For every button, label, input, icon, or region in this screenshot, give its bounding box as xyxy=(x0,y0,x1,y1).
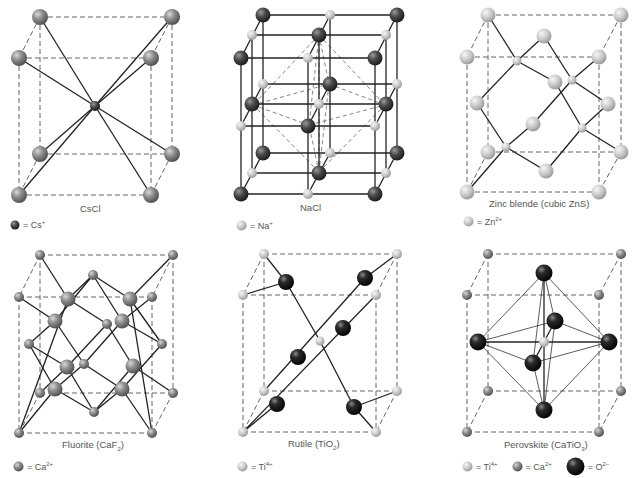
atoms xyxy=(462,249,626,437)
zn-atom-icon xyxy=(463,216,474,227)
fluorite-panel: Fluorite (CaF2) = Ca2+ xyxy=(0,239,213,478)
nacl-caption: NaCl xyxy=(300,202,321,213)
cscl-panel: CsCl = Cs+ xyxy=(0,0,213,239)
na-atom-icon xyxy=(236,220,247,231)
zinc-blende-legend: = Zn2+ xyxy=(463,216,502,227)
nacl-panel: NaCl = Na+ xyxy=(213,0,426,239)
perovskite-legend-ca: = Ca2+ xyxy=(512,461,552,472)
rutile-legend: = Ti4+ xyxy=(237,461,273,472)
cscl-legend-label: = Cs+ xyxy=(23,220,45,230)
cscl-crystal-diagram xyxy=(0,0,213,239)
ti-atom-icon xyxy=(462,461,473,472)
atoms xyxy=(238,249,402,437)
fluorite-caption: Fluorite (CaF2) xyxy=(62,439,124,450)
perovskite-legend-ti: = Ti4+ xyxy=(462,461,498,472)
nacl-legend: = Na+ xyxy=(236,220,273,231)
unit-cell-edges xyxy=(19,255,173,433)
ti-atom-icon xyxy=(237,461,248,472)
o-atom-icon xyxy=(566,457,585,476)
bonds xyxy=(19,255,173,433)
perovskite-legend: = Ti4+ = Ca2+ = O2− xyxy=(462,457,609,476)
rutile-panel: Rutile (TiO2) = Ti4+ xyxy=(213,239,426,478)
zinc-blende-caption: Zinc blende (cubic ZnS) xyxy=(489,198,589,209)
zinc-blende-legend-label: = Zn2+ xyxy=(477,217,502,227)
cs-atom-icon xyxy=(10,220,20,230)
zinc-blende-panel: Zinc blende (cubic ZnS) = Zn2+ xyxy=(426,0,639,239)
cscl-caption: CsCl xyxy=(80,203,101,214)
perovskite-legend-o: = O2− xyxy=(566,457,610,476)
nacl-legend-label: = Na+ xyxy=(250,221,273,231)
ca-atom-icon xyxy=(13,461,24,472)
ca-atom-icon xyxy=(512,461,523,472)
fluorite-legend-label: = Ca2+ xyxy=(27,462,53,472)
rutile-legend-label: = Ti4+ xyxy=(251,462,273,472)
perovskite-caption: Perovskite (CaTiO3) xyxy=(504,439,588,450)
perovskite-panel: Perovskite (CaTiO3) = Ti4+ = Ca2+ = O2− xyxy=(426,239,639,478)
cscl-legend: = Cs+ xyxy=(10,220,45,230)
fluorite-legend: = Ca2+ xyxy=(13,461,53,472)
rutile-caption: Rutile (TiO2) xyxy=(288,438,340,449)
